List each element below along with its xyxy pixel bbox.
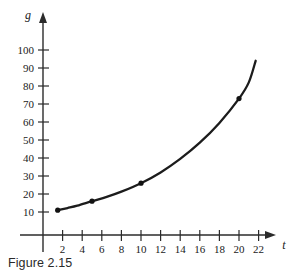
x-tick-label: 16: [194, 243, 206, 255]
y-tick-label: 50: [23, 134, 35, 146]
y-tick-label: 100: [18, 44, 35, 56]
x-tick-label: 22: [253, 243, 264, 255]
data-point-marker: [89, 199, 94, 204]
data-point-marker: [138, 181, 143, 186]
y-axis-ticks: 102030405060708090100: [18, 44, 50, 218]
x-tick-label: 14: [175, 243, 187, 255]
data-point-marker: [236, 96, 241, 101]
figure-container: g t 102030405060708090100 24681012141618…: [0, 0, 294, 279]
x-axis-ticks: 246810121416182022: [60, 230, 264, 255]
y-tick-label: 30: [23, 170, 35, 182]
figure-caption: Figure 2.15: [8, 256, 72, 270]
data-point-marker: [55, 208, 60, 213]
x-tick-label: 2: [60, 243, 66, 255]
x-axis-arrow-icon: [265, 231, 276, 239]
y-tick-label: 60: [23, 116, 35, 128]
y-tick-label: 90: [23, 62, 35, 74]
data-point-markers: [55, 96, 241, 213]
x-tick-label: 18: [214, 243, 226, 255]
exponential-growth-chart: g t 102030405060708090100 24681012141618…: [0, 0, 294, 279]
x-tick-label: 20: [234, 243, 246, 255]
y-tick-label: 40: [23, 152, 35, 164]
x-tick-label: 4: [79, 243, 85, 255]
x-tick-label: 6: [99, 243, 105, 255]
y-tick-label: 80: [23, 80, 35, 92]
y-axis-label: g: [25, 8, 31, 22]
y-axis-arrow-icon: [39, 12, 47, 23]
y-tick-label: 70: [23, 98, 35, 110]
y-tick-label: 20: [23, 188, 35, 200]
y-tick-label: 10: [23, 206, 35, 218]
x-axis-label: t: [282, 238, 286, 252]
x-tick-label: 12: [155, 243, 166, 255]
x-tick-label: 10: [136, 243, 148, 255]
growth-curve: [58, 61, 256, 210]
x-tick-label: 8: [119, 243, 125, 255]
